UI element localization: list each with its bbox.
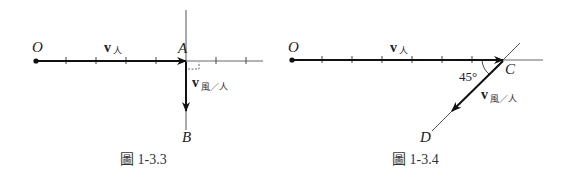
figure-1-3-3: O A B v 人 v 風／人 圖 1-3.3 (32, 10, 263, 167)
diagram-canvas: O A B v 人 v 風／人 圖 1-3.3 O (0, 0, 571, 178)
label-v-person-sub: 人 (113, 46, 122, 56)
caption-figure-1-3-4: 圖 1-3.4 (392, 152, 439, 167)
right-angle-marker (188, 62, 199, 69)
label-origin: O (32, 39, 43, 55)
label-point-a: A (177, 40, 188, 56)
label-angle: 45° (459, 69, 477, 84)
label-v-wind-relative-sub: 風／人 (201, 82, 228, 92)
label-point-c: C (505, 61, 516, 77)
label-v-person: v (390, 40, 397, 55)
label-v-wind-relative-sub: 風／人 (490, 94, 517, 104)
label-origin: O (288, 39, 299, 55)
caption-figure-1-3-3: 圖 1-3.3 (120, 152, 167, 167)
label-v-wind-relative: v (192, 75, 199, 90)
label-point-b: B (182, 129, 191, 145)
label-v-person: v (104, 40, 111, 55)
angle-arc (482, 60, 489, 74)
label-v-person-sub: 人 (399, 46, 408, 56)
figure-1-3-4: O C D 45° v 人 v 風／人 圖 1-3.4 (288, 39, 543, 167)
label-v-wind-relative: v (481, 87, 488, 102)
label-point-d: D (419, 129, 431, 145)
